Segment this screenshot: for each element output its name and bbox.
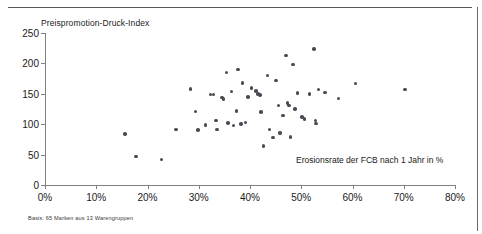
- scatter-point: [226, 121, 230, 125]
- x-tick-label: 10%: [86, 192, 106, 203]
- scatter-point: [134, 155, 138, 159]
- right-border: [477, 7, 478, 231]
- y-axis-line: [45, 33, 46, 185]
- y-tick-mark: [41, 155, 45, 156]
- x-tick-label: 50%: [291, 192, 311, 203]
- scatter-point: [308, 92, 312, 96]
- x-tick-mark: [199, 185, 200, 189]
- scatter-point: [160, 158, 164, 162]
- scatter-point: [258, 93, 262, 97]
- scatter-point: [354, 82, 358, 86]
- scatter-point: [281, 114, 285, 118]
- scatter-point: [287, 104, 291, 108]
- x-axis-title: Erosionsrate der FCB nach 1 Jahr in %: [296, 155, 443, 165]
- scatter-point: [189, 87, 193, 91]
- x-tick-mark: [148, 185, 149, 189]
- scatter-point: [271, 136, 275, 140]
- x-tick-mark: [250, 185, 251, 189]
- scatter-point: [214, 119, 218, 123]
- x-tick-label: 20%: [137, 192, 157, 203]
- scatter-point: [215, 128, 219, 132]
- scatter-point: [323, 91, 327, 95]
- x-tick-mark: [45, 185, 46, 189]
- y-tick-label: 150: [22, 88, 39, 99]
- scatter-point: [246, 95, 250, 99]
- y-tick-mark: [41, 33, 45, 34]
- y-tick-mark: [41, 63, 45, 64]
- scatter-point: [312, 47, 316, 51]
- scatter-point: [174, 128, 178, 132]
- scatter-point: [289, 135, 293, 139]
- y-tick-label: 250: [22, 28, 39, 39]
- scatter-point: [403, 88, 407, 92]
- scatter-point: [293, 107, 297, 111]
- x-tick-mark: [96, 185, 97, 189]
- scatter-point: [277, 104, 281, 108]
- scatter-point: [250, 86, 254, 90]
- top-divider: [8, 7, 472, 8]
- scatter-point: [278, 131, 282, 135]
- scatter-point: [241, 81, 245, 85]
- scatter-point: [314, 122, 318, 126]
- scatter-point: [266, 74, 270, 78]
- scatter-point: [274, 79, 278, 83]
- scatter-point: [225, 71, 229, 75]
- x-tick-label: 30%: [189, 192, 209, 203]
- scatter-point: [337, 97, 341, 101]
- y-axis-title: Preispromotion-Druck-Index: [41, 18, 149, 28]
- x-tick-mark: [404, 185, 405, 189]
- scatter-point: [291, 63, 295, 67]
- y-tick-label: 200: [22, 58, 39, 69]
- x-tick-label: 40%: [240, 192, 260, 203]
- x-tick-label: 0%: [38, 192, 52, 203]
- scatter-point: [194, 110, 198, 114]
- scatter-point: [244, 121, 248, 125]
- chart-footnote: Basis: 65 Marken aus 13 Warengruppen: [28, 215, 133, 221]
- scatter-point: [296, 91, 300, 95]
- scatter-point: [204, 123, 208, 127]
- scatter-point: [303, 117, 307, 121]
- scatter-point: [259, 110, 263, 114]
- scatter-point: [123, 132, 127, 136]
- x-tick-mark: [301, 185, 302, 189]
- scatter-point: [222, 97, 226, 101]
- y-tick-label: 100: [22, 119, 39, 130]
- scatter-point: [236, 68, 240, 72]
- y-tick-label: 0: [33, 180, 39, 191]
- y-tick-label: 50: [28, 149, 39, 160]
- scatter-point: [212, 93, 216, 97]
- scatter-point: [232, 124, 236, 128]
- scatter-point: [268, 128, 272, 132]
- scatter-point: [262, 144, 266, 148]
- x-tick-mark: [455, 185, 456, 189]
- chart-container: Preispromotion-Druck-Index 0501001502002…: [0, 0, 482, 234]
- x-tick-mark: [353, 185, 354, 189]
- x-tick-label: 80%: [445, 192, 465, 203]
- scatter-point: [239, 122, 243, 126]
- x-tick-label: 60%: [342, 192, 362, 203]
- scatter-point: [284, 54, 288, 58]
- x-tick-label: 70%: [394, 192, 414, 203]
- scatter-point: [317, 88, 321, 92]
- y-tick-mark: [41, 94, 45, 95]
- y-tick-mark: [41, 124, 45, 125]
- scatter-point: [196, 128, 200, 132]
- scatter-point: [235, 109, 239, 113]
- scatter-point: [230, 90, 234, 94]
